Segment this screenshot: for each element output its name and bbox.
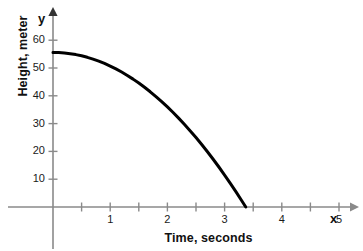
y-tick-label-30: 30 [23,117,45,129]
x-tick-label-4: 4 [275,213,289,225]
chart-plot-area [0,0,363,251]
y-axis-arrow [48,7,57,16]
y-tick-label-20: 20 [23,144,45,156]
y-tick-label-40: 40 [23,89,45,101]
y-axis-title: Height, meter [16,15,30,96]
y-axis-name: y [38,11,45,26]
x-tick-label-2: 2 [160,213,174,225]
y-tick-label-10: 10 [23,172,45,184]
ticks-group [49,40,340,211]
y-tick-label-50: 50 [23,61,45,73]
series-line-height [53,52,246,207]
height-curve-group [53,52,246,207]
x-tick-label-5: 5 [332,213,346,225]
x-tick-label-3: 3 [218,213,232,225]
x-tick-label-1: 1 [103,213,117,225]
projectile-height-chart: y x Height, meter Time, seconds 12345102… [0,0,363,251]
x-axis-arrow [350,202,359,211]
x-axis-title: Time, seconds [0,231,363,245]
y-tick-label-60: 60 [23,33,45,45]
axes-group [8,7,359,249]
